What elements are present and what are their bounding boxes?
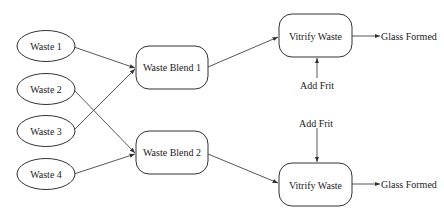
- vitrify2-label: Vitrify Waste: [289, 180, 343, 191]
- waste-input-waste3: Waste 3: [17, 116, 75, 147]
- vitrify-waste-bottom-node: Vitrify Waste: [279, 163, 352, 206]
- waste3-label: Waste 3: [30, 126, 62, 137]
- waste-blend-1-node: Waste Blend 1: [136, 46, 208, 89]
- waste4-label: Waste 4: [30, 169, 62, 180]
- waste1-label: Waste 1: [30, 41, 62, 52]
- edge-waste4-to-blend2: [74, 154, 135, 174]
- glass-formed-top-label: Glass Formed: [381, 31, 437, 42]
- glass-formed-bottom-label: Glass Formed: [381, 179, 437, 190]
- waste-input-waste1: Waste 1: [17, 31, 75, 62]
- vitrify1-label: Vitrify Waste: [289, 31, 343, 42]
- add-frit-bottom-label: Add Frit: [299, 118, 333, 129]
- edge-blend1-to-vitrify1: [208, 37, 278, 67]
- blend2-label: Waste Blend 2: [143, 147, 201, 158]
- add-frit-top-label: Add Frit: [300, 80, 334, 91]
- waste-vitrification-flow-diagram: Waste 1 Waste 2 Waste 3 Waste 4 Waste Bl…: [0, 0, 444, 218]
- waste-input-waste4: Waste 4: [17, 159, 75, 190]
- vitrify-waste-top-node: Vitrify Waste: [279, 14, 352, 57]
- waste-blend-2-node: Waste Blend 2: [136, 131, 208, 174]
- edges: [74, 36, 380, 184]
- waste-input-waste2: Waste 2: [17, 74, 75, 105]
- waste2-label: Waste 2: [30, 84, 62, 95]
- blend1-label: Waste Blend 1: [143, 62, 201, 73]
- edge-waste1-to-blend1: [74, 47, 135, 68]
- edge-blend2-to-vitrify2: [208, 154, 278, 183]
